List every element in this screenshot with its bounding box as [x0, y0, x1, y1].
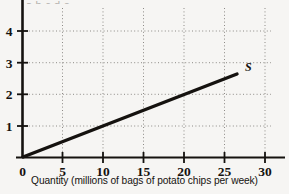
- y-tick-label-4: 4: [6, 24, 13, 39]
- supply-curve-line: [23, 74, 237, 157]
- horizontal-gridlines: [22, 31, 271, 126]
- chart-canvas: 4 3 2 1 0 5 10 15 20 25 30 S: [0, 0, 289, 194]
- vertical-gridlines: [63, 8, 266, 157]
- y-tick-label-1: 1: [6, 119, 13, 134]
- y-axis-tick-labels: 4 3 2 1: [6, 24, 13, 134]
- supply-curve-label: S: [245, 60, 252, 74]
- y-tick-label-3: 3: [6, 56, 13, 71]
- x-axis-caption: Quantity (millions of bags of potato chi…: [0, 175, 289, 186]
- supply-curve-figure: a b c d e: [0, 0, 289, 194]
- y-tick-label-2: 2: [6, 87, 13, 102]
